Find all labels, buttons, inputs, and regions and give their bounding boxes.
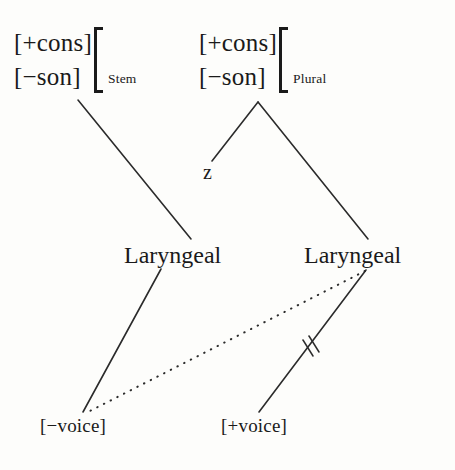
autosegmental-diagram: [+cons] [−son] Stem [+cons] [−son] Plura…	[0, 0, 455, 470]
feature-matrix-plural-rows: [+cons] [−son]	[199, 26, 277, 93]
segment-node-z: z	[203, 162, 212, 182]
delink-double-strike-icon	[303, 336, 319, 356]
feature-stem-son: [−son]	[14, 60, 92, 94]
node-laryngeal-left: Laryngeal	[124, 243, 221, 267]
feature-plural-son: [−son]	[199, 60, 277, 94]
matrix-bracket-plural	[279, 27, 292, 93]
feature-plural-cons: [+cons]	[199, 26, 277, 60]
terminal-node-plus-voice: [+voice]	[221, 416, 287, 435]
matrix-subscript-plural: Plural	[293, 71, 326, 93]
association-line-stem-to-laryngeal-left	[78, 100, 191, 239]
association-line-plural-to-z	[212, 102, 258, 161]
matrix-bracket-stem	[94, 27, 107, 93]
terminal-node-minus-voice: [−voice]	[40, 416, 106, 435]
feature-stem-cons: [+cons]	[14, 26, 92, 60]
matrix-subscript-stem: Stem	[108, 71, 137, 93]
feature-matrix-stem: [+cons] [−son] Stem	[14, 26, 137, 93]
association-line-laryngeal-right-to-plus-voice	[259, 270, 366, 412]
association-line-plural-to-laryngeal-right	[258, 102, 368, 239]
association-line-laryngeal-left-to-minus-voice	[83, 269, 161, 412]
feature-matrix-stem-rows: [+cons] [−son]	[14, 26, 92, 93]
node-laryngeal-right: Laryngeal	[304, 243, 401, 267]
spreading-line-dotted-laryngeal-right-to-minus-voice	[86, 271, 365, 413]
feature-matrix-plural: [+cons] [−son] Plural	[199, 26, 326, 93]
